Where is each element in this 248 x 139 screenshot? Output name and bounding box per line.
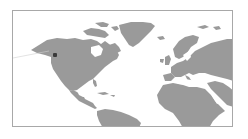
arctic-islands	[83, 28, 109, 38]
north-america-landmass	[31, 38, 119, 91]
location-marker-icon[interactable]	[53, 53, 57, 57]
map-frame[interactable]	[12, 10, 233, 127]
south-america	[97, 109, 141, 127]
greenland	[119, 22, 155, 47]
world-map	[13, 11, 233, 127]
british-isles	[165, 55, 171, 65]
map-widget	[0, 0, 248, 139]
iceland	[157, 36, 165, 40]
